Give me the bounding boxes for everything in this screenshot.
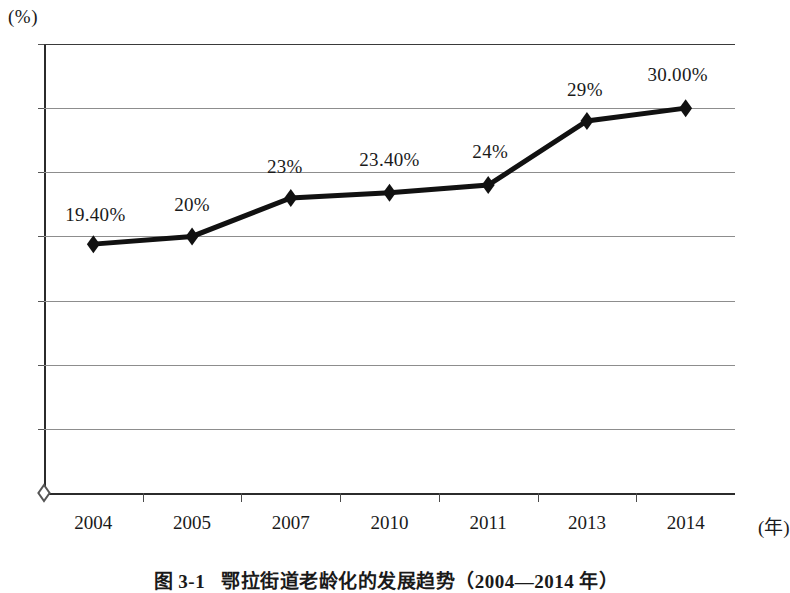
figure-caption-number: 图 3-1 — [154, 571, 206, 592]
data-point-value-label-2004: 19.40% — [65, 204, 125, 226]
data-point-value-label-2013: 29% — [567, 79, 603, 101]
data-point-marker-2013 — [580, 112, 593, 130]
data-point-marker-2011 — [482, 176, 495, 194]
series-line-chart — [44, 44, 735, 493]
origin-marker — [38, 485, 49, 501]
series-polyline — [93, 108, 685, 244]
data-point-value-label-2011: 24% — [472, 141, 508, 163]
x-tick-label-2014: 2014 — [626, 512, 746, 534]
data-point-marker-2004 — [87, 235, 100, 253]
data-point-marker-2010 — [383, 184, 396, 202]
data-point-marker-2005 — [186, 227, 199, 245]
data-point-value-label-2007: 23% — [267, 156, 303, 178]
data-point-marker-2007 — [284, 189, 297, 207]
data-point-value-label-2005: 20% — [174, 194, 210, 216]
figure-caption: 图 3-1鄂拉街道老龄化的发展趋势（2004—2014 年） — [0, 566, 772, 593]
x-tick-mark-4 — [439, 493, 440, 502]
x-tick-mark-6 — [636, 493, 637, 502]
data-point-value-label-2014: 30.00% — [647, 64, 707, 86]
x-tick-mark-5 — [538, 493, 539, 502]
origin-open-diamond-marker — [38, 485, 49, 501]
x-tick-mark-3 — [340, 493, 341, 502]
x-tick-mark-2 — [241, 493, 242, 502]
x-tick-mark-1 — [143, 493, 144, 502]
data-point-value-label-2010: 23.40% — [359, 149, 419, 171]
figure-caption-text: 鄂拉街道老龄化的发展趋势（2004—2014 年） — [221, 571, 618, 592]
y-axis-unit-label: (%) — [8, 6, 38, 28]
x-axis-line — [44, 493, 735, 495]
data-point-marker-2014 — [679, 99, 692, 117]
series-markers — [87, 99, 692, 253]
plot-area: 05101520253035 19.40%20%23%23.40%24%29%3… — [44, 44, 735, 493]
x-axis-unit-label: (年) — [758, 512, 790, 539]
